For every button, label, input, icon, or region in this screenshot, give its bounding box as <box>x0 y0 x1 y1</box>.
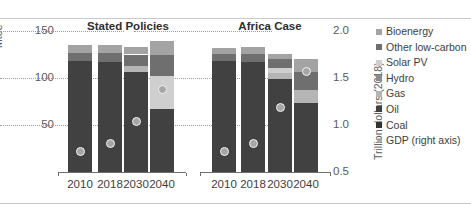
axis-tick-mark-3 <box>200 172 201 176</box>
clipped-figure-title <box>10 0 460 4</box>
top-divider <box>0 18 471 19</box>
bar-segment-other-low-carbon <box>150 55 174 76</box>
bar-stack <box>294 59 318 172</box>
legend-square-swatch-icon <box>376 122 382 128</box>
bar-segment-bioenergy <box>68 45 92 53</box>
bar-stack <box>241 47 265 172</box>
legend-item-label: GDP (right axis) <box>386 133 461 148</box>
gdp-marker <box>249 139 258 148</box>
axis-group-gap <box>186 172 200 173</box>
right-axis-tick-0.5: 0.5 <box>333 166 367 177</box>
axis-tick-mark-1 <box>58 172 59 176</box>
legend-item[interactable]: Other low-carbon <box>376 40 471 56</box>
legend-square-swatch-icon <box>376 44 382 50</box>
gdp-marker <box>132 117 141 126</box>
legend-item[interactable]: Solar PV <box>376 55 471 71</box>
bar-segment-oil <box>98 62 122 172</box>
bar-segment-bioenergy <box>98 45 122 53</box>
gdp-marker <box>302 67 311 76</box>
x-tick-label: 2040 <box>145 178 179 190</box>
bar-segment-bioenergy <box>124 47 148 55</box>
bar-segment-other-low-carbon <box>212 54 236 62</box>
gdp-marker <box>158 85 167 94</box>
legend-square-swatch-icon <box>376 91 382 97</box>
bar-segment-other-low-carbon <box>124 55 148 66</box>
bar-segment-bioenergy <box>268 54 292 60</box>
left-axis-title: Mtoe <box>0 25 4 48</box>
bar-stack <box>150 41 174 172</box>
bar-stack <box>98 45 122 172</box>
legend-item-label: Coal <box>386 118 408 133</box>
bar-segment-bioenergy <box>150 41 174 55</box>
gridline-150-a <box>0 31 124 32</box>
right-axis-tick-1.5: 1.5 <box>333 72 367 83</box>
legend-item[interactable]: Oil <box>376 102 471 118</box>
bar-stack <box>268 54 292 172</box>
bar-segment-other-low-carbon <box>68 53 92 61</box>
bar-segment-oil <box>241 62 265 172</box>
bar-segment-other-low-carbon <box>241 54 265 62</box>
chart-legend: BioenergyOther low-carbonSolar PVHydroGa… <box>376 24 471 149</box>
bar-segment-gas <box>268 73 292 79</box>
legend-circle-marker-icon <box>377 138 382 143</box>
legend-item[interactable]: GDP (right axis) <box>376 133 471 149</box>
legend-item-label: Gas <box>386 86 405 101</box>
legend-item[interactable]: Hydro <box>376 71 471 87</box>
chart-figure: 50100150 Mtoe 0.51.01.52.0 Trillion doll… <box>0 0 471 213</box>
x-tick-label: 2040 <box>289 178 323 190</box>
axis-tick-mark-4 <box>330 172 331 176</box>
bar-segment-solar-pv <box>268 68 292 74</box>
legend-square-swatch-icon <box>376 60 382 66</box>
gdp-marker <box>220 147 229 156</box>
legend-item[interactable]: Gas <box>376 86 471 102</box>
bar-segment-gas <box>294 90 318 103</box>
gdp-marker <box>76 147 85 156</box>
bottom-divider <box>0 203 471 204</box>
bar-segment-oil <box>150 109 174 172</box>
legend-item-label: Hydro <box>386 71 414 86</box>
bar-segment-bioenergy <box>241 47 265 54</box>
bar-segment-oil <box>294 103 318 172</box>
legend-square-swatch-icon <box>376 106 382 112</box>
legend-item-label: Solar PV <box>386 55 427 70</box>
gdp-marker <box>276 103 285 112</box>
legend-item[interactable]: Bioenergy <box>376 24 471 40</box>
bar-segment-other-low-carbon <box>268 59 292 67</box>
legend-item-label: Oil <box>386 102 399 117</box>
bar-segment-oil <box>268 79 292 172</box>
legend-item[interactable]: Coal <box>376 118 471 134</box>
gridline-150-b <box>134 31 272 32</box>
gdp-marker <box>106 139 115 148</box>
legend-square-swatch-icon <box>376 29 382 35</box>
bar-stack <box>124 47 148 172</box>
bar-segment-gas <box>124 66 148 73</box>
legend-square-swatch-icon <box>376 75 382 81</box>
bar-segment-other-low-carbon <box>98 53 122 62</box>
right-axis-tick-1.0: 1.0 <box>333 119 367 130</box>
legend-item-label: Other low-carbon <box>386 40 467 55</box>
x-tick-label: 2010 <box>63 178 97 190</box>
legend-item-label: Bioenergy <box>386 24 433 39</box>
bar-segment-bioenergy <box>212 48 236 54</box>
